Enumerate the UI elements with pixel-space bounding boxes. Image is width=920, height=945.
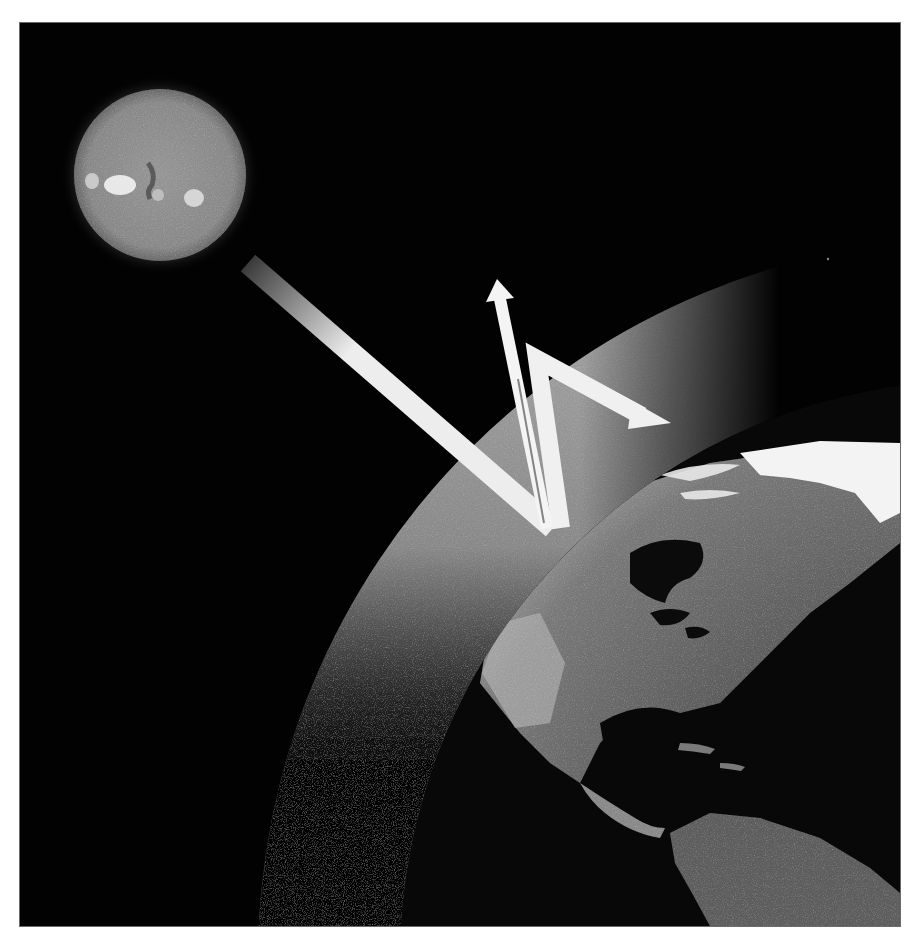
greenhouse-effect-illustration [20, 23, 900, 926]
sun [60, 75, 260, 275]
incoming-solar-ray [248, 263, 553, 528]
diagram-panel: Greenhouse effect illustration [20, 23, 900, 926]
arrowhead-up-icon [486, 279, 514, 302]
